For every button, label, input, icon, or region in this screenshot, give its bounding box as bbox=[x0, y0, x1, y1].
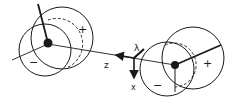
right-orbital-axis-line bbox=[175, 45, 221, 65]
right-minus-label: − bbox=[153, 79, 162, 92]
left-minus-label: − bbox=[29, 56, 38, 69]
coordinate-frame: z x λ bbox=[104, 43, 144, 92]
z-axis-arrow bbox=[116, 55, 134, 58]
left-plus-label: + bbox=[78, 23, 87, 36]
left-orbital-axis-line bbox=[38, 4, 48, 43]
lambda-axis-label: λ bbox=[134, 43, 140, 53]
right-plus-label: + bbox=[203, 57, 212, 70]
left-nucleus-dot bbox=[44, 39, 53, 48]
right-nucleus-dot bbox=[171, 61, 179, 69]
x-axis-label: x bbox=[131, 83, 136, 92]
orbital-overlap-diagram: + − z x λ + − bbox=[0, 0, 233, 100]
internuclear-line bbox=[48, 44, 175, 65]
z-axis-label: z bbox=[104, 60, 109, 70]
left-orbital-group: + − bbox=[19, 4, 93, 76]
